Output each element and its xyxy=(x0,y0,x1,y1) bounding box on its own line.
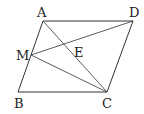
geometry-diagram: A D M E B C xyxy=(0,0,144,114)
label-e: E xyxy=(74,45,84,60)
label-d: D xyxy=(129,5,139,20)
label-a: A xyxy=(36,5,47,20)
diagram-svg: A D M E B C xyxy=(0,0,144,114)
label-b: B xyxy=(14,96,24,111)
label-m: M xyxy=(16,48,29,63)
label-c: C xyxy=(102,96,112,111)
segment-mc xyxy=(31,55,107,92)
segment-cd xyxy=(107,21,133,92)
